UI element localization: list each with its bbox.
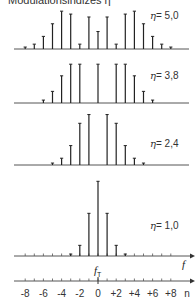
arrow-head-icon bbox=[190, 254, 195, 259]
eta-value: = 3,8 bbox=[156, 70, 179, 81]
eta-label-3-8: η= 3,8 bbox=[150, 70, 179, 81]
diagram-title: Modulationsindizes η bbox=[8, 0, 111, 6]
arrow-head-icon bbox=[190, 279, 195, 284]
n-axis-label: n bbox=[184, 288, 190, 299]
n-tick-label: -6 bbox=[39, 288, 48, 299]
fT-subscript: T bbox=[97, 271, 101, 278]
f-axis-label: f bbox=[182, 258, 185, 270]
n-tick-label: +2 bbox=[110, 288, 121, 299]
n-tick-label: +4 bbox=[129, 288, 140, 299]
n-tick-label: -8 bbox=[21, 288, 30, 299]
n-tick-label: -2 bbox=[75, 288, 84, 299]
n-tick-label: 0 bbox=[95, 288, 101, 299]
eta-label-5-0: η= 5,0 bbox=[150, 10, 179, 21]
fm-spectrum-diagram: Modulationsindizes η η= 5,0 η= 3,8 η= 2,… bbox=[0, 0, 195, 304]
spectrum-plot bbox=[0, 0, 195, 304]
eta-label-1-0: η= 1,0 bbox=[150, 220, 179, 231]
n-tick-label: +6 bbox=[147, 288, 158, 299]
eta-value: = 5,0 bbox=[156, 10, 179, 21]
eta-value: = 2,4 bbox=[156, 138, 179, 149]
carrier-frequency-label: fT bbox=[94, 264, 101, 278]
eta-label-2-4: η= 2,4 bbox=[150, 138, 179, 149]
eta-value: = 1,0 bbox=[156, 220, 179, 231]
n-tick-label: +8 bbox=[165, 288, 176, 299]
n-tick-label: -4 bbox=[57, 288, 66, 299]
